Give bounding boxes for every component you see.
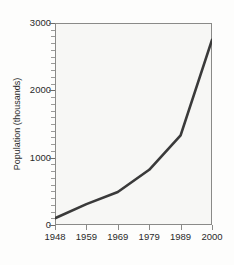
y-axis-minor-tick <box>51 70 55 71</box>
y-axis-minor-tick <box>51 36 55 37</box>
y-axis-major-tick <box>49 158 55 159</box>
population-series-line <box>55 40 212 218</box>
y-axis-minor-tick <box>51 77 55 78</box>
x-axis-tick <box>149 225 150 230</box>
y-axis-minor-tick <box>51 117 55 118</box>
y-axis-minor-tick <box>51 198 55 199</box>
x-axis-tick <box>86 225 87 230</box>
y-axis-minor-tick <box>51 212 55 213</box>
y-axis-major-tick <box>49 90 55 91</box>
y-axis-minor-tick <box>51 111 55 112</box>
y-axis-minor-tick <box>51 144 55 145</box>
y-axis-minor-tick <box>51 43 55 44</box>
y-axis-minor-tick <box>51 151 55 152</box>
y-axis-minor-tick <box>51 185 55 186</box>
x-axis-tick <box>212 225 213 230</box>
y-axis-minor-tick <box>51 218 55 219</box>
y-axis-minor-tick <box>51 104 55 105</box>
population-line-chart: 0100020003000 194819591969197919892000 P… <box>0 0 234 265</box>
y-axis-minor-tick <box>51 50 55 51</box>
y-axis-minor-tick <box>51 63 55 64</box>
y-axis-minor-tick <box>51 164 55 165</box>
y-axis-title: Population (thousands) <box>10 23 24 225</box>
y-axis-minor-tick <box>51 137 55 138</box>
y-axis-minor-tick <box>51 205 55 206</box>
x-axis-tick <box>55 225 56 230</box>
data-line-layer <box>55 23 212 225</box>
y-axis-minor-tick <box>51 191 55 192</box>
y-axis-minor-tick <box>51 97 55 98</box>
y-axis-minor-tick <box>51 124 55 125</box>
y-axis-major-tick <box>49 23 55 24</box>
y-axis-minor-tick <box>51 84 55 85</box>
y-axis-minor-tick <box>51 30 55 31</box>
y-axis-minor-tick <box>51 57 55 58</box>
x-axis-tick-label: 2000 <box>192 231 232 242</box>
y-axis-minor-tick <box>51 171 55 172</box>
x-axis-tick <box>118 225 119 230</box>
y-axis-minor-tick <box>51 131 55 132</box>
x-axis-tick <box>181 225 182 230</box>
y-axis-minor-tick <box>51 178 55 179</box>
